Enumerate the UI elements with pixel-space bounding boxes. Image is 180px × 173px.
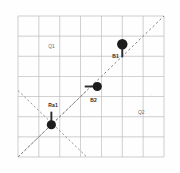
plot-canvas	[0, 0, 180, 173]
scatter-plot-figure: B1B2Ra1Q1Q2	[0, 0, 180, 173]
data-point-b1	[117, 39, 127, 49]
region-q1: Q1	[48, 44, 55, 49]
point-label-ra1: Ra1	[48, 103, 57, 108]
point-label-b1: B1	[112, 54, 119, 59]
point-label-b2: B2	[90, 98, 97, 103]
region-q2: Q2	[138, 110, 145, 115]
data-point-ra1	[47, 120, 56, 129]
data-point-b2	[93, 82, 102, 91]
